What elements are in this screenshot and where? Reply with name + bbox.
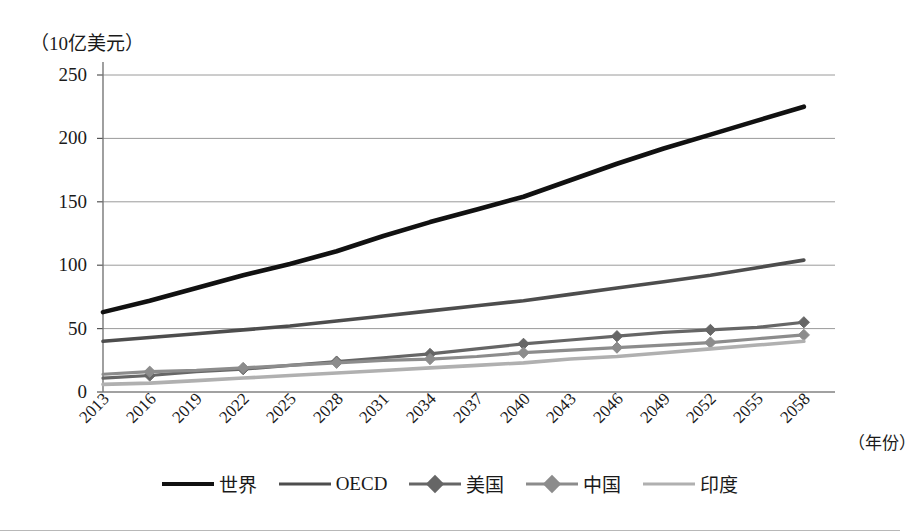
legend-item-OECD[interactable]: OECD	[279, 473, 388, 495]
legend-swatch-icon	[162, 477, 214, 491]
y-axis-tick-label: 50	[27, 319, 87, 338]
y-axis-tick-label: 250	[27, 65, 87, 84]
legend-label: 印度	[700, 470, 738, 497]
x-axis-title: （年份）	[848, 429, 909, 454]
legend-label: OECD	[336, 473, 388, 495]
data-point-marker	[705, 324, 716, 335]
series-line	[103, 341, 804, 384]
legend-item-世界[interactable]: 世界	[162, 470, 257, 497]
series-世界	[103, 107, 804, 312]
data-point-marker	[798, 329, 809, 340]
chart-legend: 世界OECD美国中国印度	[0, 470, 900, 497]
legend-line	[279, 482, 331, 485]
legend-label: 世界	[219, 470, 257, 497]
y-axis-tick-label: 100	[27, 255, 87, 274]
data-point-marker	[238, 362, 249, 373]
legend-swatch-icon	[409, 477, 461, 491]
series-line	[103, 107, 804, 312]
legend-diamond-marker-icon	[426, 474, 444, 492]
y-axis-tick-label: 200	[27, 128, 87, 147]
series-layer	[103, 107, 809, 385]
legend-label: 美国	[466, 470, 504, 497]
legend-label: 中国	[583, 470, 621, 497]
y-axis-tick-label: 150	[27, 192, 87, 211]
legend-swatch-icon	[643, 477, 695, 491]
data-point-marker	[798, 317, 809, 328]
legend-line	[162, 482, 214, 486]
data-point-marker	[611, 342, 622, 353]
legend-item-美国[interactable]: 美国	[409, 470, 504, 497]
legend-line	[643, 482, 695, 485]
legend-item-中国[interactable]: 中国	[526, 470, 621, 497]
data-point-marker	[705, 337, 716, 348]
legend-swatch-icon	[279, 477, 331, 491]
y-axis-tick-label: 0	[27, 382, 87, 401]
gridlines	[103, 75, 835, 392]
legend-diamond-marker-icon	[543, 474, 561, 492]
series-中国	[103, 329, 809, 377]
data-point-marker	[611, 331, 622, 342]
series-印度	[103, 341, 804, 384]
legend-swatch-icon	[526, 477, 578, 491]
data-point-marker	[518, 347, 529, 358]
legend-item-印度[interactable]: 印度	[643, 470, 738, 497]
data-point-marker	[331, 357, 342, 368]
